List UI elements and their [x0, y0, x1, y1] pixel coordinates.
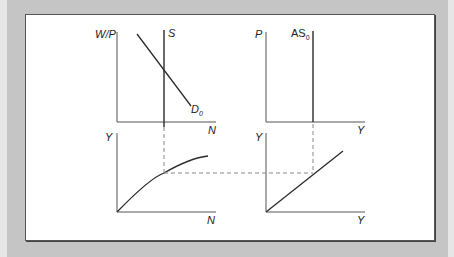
- wp-axis-label: W/P: [95, 28, 116, 40]
- n-axis-label-top: N: [208, 124, 216, 136]
- y-axis-label-left: Y: [105, 131, 113, 143]
- d-curve-label: D0: [191, 103, 203, 117]
- dashed-connectors: [164, 124, 313, 173]
- forty-five-degree-chart: Y Y: [255, 131, 365, 226]
- s-curve-label: S: [168, 27, 176, 39]
- production-function-chart: Y N: [105, 131, 216, 226]
- forty-five-degree-line: [266, 151, 343, 212]
- n-axis-label-bottom: N: [207, 214, 215, 226]
- aggregate-supply-chart: P AS0 Y: [255, 27, 365, 136]
- y-axis-label-right: Y: [255, 131, 263, 143]
- production-curve: [117, 156, 208, 212]
- diagram-svg: W/P S D0 N P AS0 Y Y N Y Y: [0, 0, 454, 257]
- y-axis-label-top: Y: [357, 124, 365, 136]
- labor-market-chart: W/P S D0 N: [95, 27, 216, 136]
- p-axis-label: P: [255, 28, 263, 40]
- as-curve-label: AS0: [291, 27, 310, 41]
- y-axis-label-bottom: Y: [357, 214, 365, 226]
